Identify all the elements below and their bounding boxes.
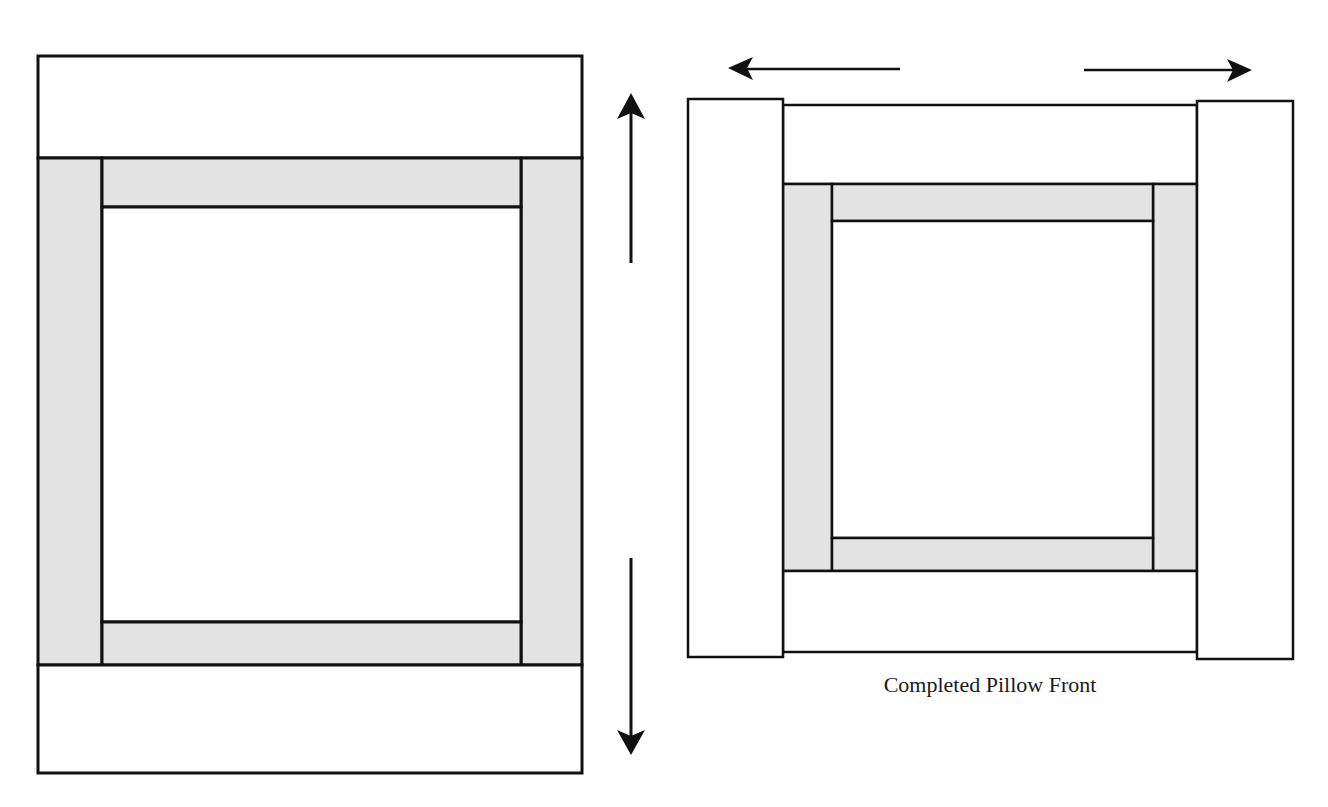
- left-side-strip: [38, 158, 102, 665]
- inner-top-strip: [102, 158, 521, 207]
- bottom-border-band: [38, 665, 582, 773]
- center-square: [832, 221, 1153, 538]
- right-side-strip: [1153, 184, 1197, 571]
- left-border-band: [688, 99, 783, 657]
- left-pillow-diagram: [38, 56, 582, 773]
- left-side-strip: [783, 184, 832, 571]
- right-arrow-icon: [1084, 59, 1252, 82]
- down-arrow-icon: [617, 558, 645, 755]
- inner-top-strip: [832, 184, 1153, 221]
- right-pillow-diagram: [688, 99, 1293, 659]
- bottom-border-band: [783, 571, 1197, 652]
- left-arrow-icon: [728, 57, 900, 80]
- top-border-band: [38, 56, 582, 158]
- center-square: [102, 207, 521, 622]
- inner-bottom-strip: [102, 622, 521, 665]
- up-arrow-icon: [617, 93, 645, 263]
- right-side-strip: [521, 158, 582, 665]
- right-border-band: [1197, 101, 1293, 659]
- diagram-caption: Completed Pillow Front: [840, 672, 1140, 698]
- top-border-band: [783, 105, 1197, 184]
- inner-bottom-strip: [832, 538, 1153, 571]
